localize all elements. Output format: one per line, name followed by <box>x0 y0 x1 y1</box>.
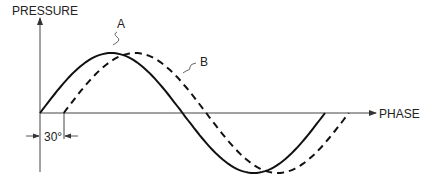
phase-offset-label: 30° <box>44 130 62 144</box>
curve-a-leader <box>113 32 119 45</box>
curve-b-leader <box>183 63 196 73</box>
curve-a-label: A <box>117 17 125 31</box>
y-axis-label: PRESSURE <box>12 4 78 18</box>
phase-diagram: PRESSURE PHASE A B 30° <box>0 0 435 185</box>
x-axis-label: PHASE <box>379 107 420 121</box>
curve-b-label: B <box>200 55 208 69</box>
